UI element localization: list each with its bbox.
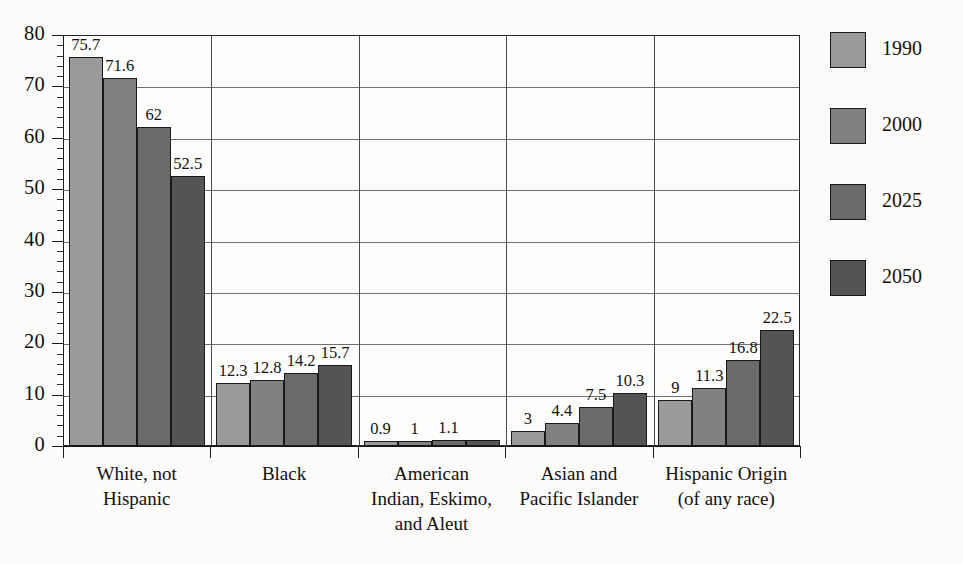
legend-item[interactable]: 2050: [826, 260, 956, 296]
y-axis-tick-label: 0: [0, 433, 45, 456]
y-tick-minor: [57, 323, 63, 324]
bar[interactable]: [726, 360, 760, 446]
y-tick-minor: [57, 127, 63, 128]
y-tick-minor: [57, 56, 63, 57]
bar[interactable]: [364, 441, 398, 446]
group-separator: [359, 36, 360, 445]
y-tick-major: [52, 446, 63, 447]
y-axis-tick-label: 30: [0, 279, 45, 302]
bar[interactable]: [398, 441, 432, 446]
y-axis-tick-label: 20: [0, 330, 45, 353]
y-tick-minor: [57, 97, 63, 98]
bar[interactable]: [69, 57, 103, 446]
y-tick-minor: [57, 210, 63, 211]
y-tick-minor: [57, 107, 63, 108]
bar[interactable]: [658, 400, 692, 446]
legend-item-label: 2050: [882, 265, 922, 288]
y-tick-major: [52, 343, 63, 344]
bar[interactable]: [250, 380, 284, 446]
y-tick-minor: [57, 302, 63, 303]
bar[interactable]: [284, 373, 318, 446]
y-tick-minor: [57, 271, 63, 272]
group-separator: [211, 36, 212, 445]
group-separator: [506, 36, 507, 445]
y-tick-major: [52, 189, 63, 190]
legend-swatch-icon: [830, 32, 866, 68]
y-tick-minor: [57, 117, 63, 118]
bar[interactable]: [171, 176, 205, 446]
legend-item[interactable]: 1990: [826, 32, 956, 68]
y-axis-tick-label: 80: [0, 22, 45, 45]
y-tick-minor: [57, 364, 63, 365]
y-tick-minor: [57, 261, 63, 262]
bar[interactable]: [692, 388, 726, 446]
y-tick-major: [52, 86, 63, 87]
legend-item-label: 2000: [882, 113, 922, 136]
legend-swatch-icon: [830, 184, 866, 220]
y-axis-line: [63, 35, 64, 446]
y-tick-major: [52, 35, 63, 36]
x-tick: [800, 446, 801, 458]
y-tick-minor: [57, 425, 63, 426]
bar[interactable]: [466, 440, 500, 446]
y-tick-major: [52, 292, 63, 293]
y-tick-minor: [57, 354, 63, 355]
legend-swatch-icon: [830, 108, 866, 144]
y-tick-major: [52, 395, 63, 396]
bar[interactable]: [318, 365, 352, 446]
y-tick-minor: [57, 179, 63, 180]
y-tick-minor: [57, 76, 63, 77]
bar[interactable]: [103, 78, 137, 446]
y-tick-minor: [57, 333, 63, 334]
y-tick-minor: [57, 405, 63, 406]
bar-value-label: 62: [124, 107, 184, 123]
gridline: [64, 87, 799, 88]
bar[interactable]: [432, 440, 466, 446]
x-axis-line: [63, 446, 800, 447]
bar[interactable]: [511, 431, 545, 446]
y-tick-minor: [57, 374, 63, 375]
y-tick-minor: [57, 220, 63, 221]
x-tick: [358, 446, 359, 458]
bar-value-label: 52.5: [158, 156, 218, 172]
x-tick: [505, 446, 506, 458]
bar[interactable]: [760, 330, 794, 446]
y-tick-minor: [57, 436, 63, 437]
y-tick-minor: [57, 158, 63, 159]
gridline: [64, 139, 799, 140]
y-tick-minor: [57, 199, 63, 200]
y-tick-minor: [57, 415, 63, 416]
bar-value-label: 15.7: [305, 345, 365, 361]
legend-item-label: 2025: [882, 189, 922, 212]
chart-legend: 1990 2000 2025 2050: [826, 32, 956, 336]
x-tick: [63, 446, 64, 458]
y-axis-tick-label: 40: [0, 228, 45, 251]
y-tick-minor: [57, 312, 63, 313]
legend-item[interactable]: 2000: [826, 108, 956, 144]
bar-value-label: 1.1: [419, 420, 479, 436]
bar[interactable]: [579, 407, 613, 446]
bar[interactable]: [216, 383, 250, 446]
y-tick-minor: [57, 66, 63, 67]
bar[interactable]: [545, 423, 579, 446]
bar[interactable]: [137, 127, 171, 446]
y-tick-major: [52, 138, 63, 139]
y-tick-minor: [57, 384, 63, 385]
y-tick-minor: [57, 282, 63, 283]
y-tick-minor: [57, 230, 63, 231]
legend-swatch-icon: [830, 260, 866, 296]
bar-value-label: 75.7: [56, 37, 116, 53]
y-axis-tick-label: 50: [0, 176, 45, 199]
y-axis-tick-label: 70: [0, 73, 45, 96]
bar-value-label: 22.5: [747, 310, 807, 326]
y-axis-tick-label: 60: [0, 125, 45, 148]
x-tick: [653, 446, 654, 458]
y-tick-major: [52, 241, 63, 242]
x-tick: [210, 446, 211, 458]
y-tick-minor: [57, 251, 63, 252]
y-axis-tick-label: 10: [0, 382, 45, 405]
y-tick-minor: [57, 169, 63, 170]
legend-item[interactable]: 2025: [826, 184, 956, 220]
y-tick-minor: [57, 148, 63, 149]
bar[interactable]: [613, 393, 647, 446]
